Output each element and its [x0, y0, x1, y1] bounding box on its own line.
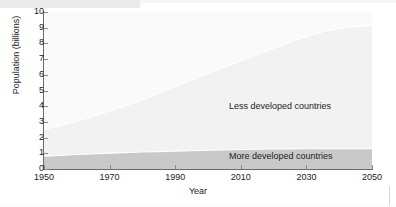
x-tick-label: 2050 [352, 172, 392, 182]
y-tick [44, 28, 48, 29]
y-tick-label: 6 [22, 70, 44, 79]
x-axis-title: Year [0, 186, 396, 196]
y-tick-label: 5 [22, 86, 44, 95]
x-tick-label: 2010 [221, 172, 261, 182]
area-less-developed [44, 25, 372, 156]
y-tick-label: 4 [22, 101, 44, 110]
x-tick-label: 1990 [155, 172, 195, 182]
x-tick [241, 165, 242, 169]
scan-artifact-top-band [0, 0, 140, 8]
y-tick [44, 59, 48, 60]
plot-area [44, 12, 372, 169]
x-tick [110, 165, 111, 169]
x-tick [175, 165, 176, 169]
x-axis-line [43, 169, 373, 170]
y-tick-label: 3 [22, 117, 44, 126]
x-tick-label: 2030 [286, 172, 326, 182]
y-tick-label: 9 [22, 23, 44, 32]
y-tick [44, 43, 48, 44]
series-label-less-developed: Less developed countries [229, 101, 331, 111]
x-tick [372, 165, 373, 169]
y-tick [44, 122, 48, 123]
y-tick-label: 10 [22, 7, 44, 16]
y-tick [44, 12, 48, 13]
population-area-chart: 012345678910 195019701990201020302050 Ye… [0, 0, 396, 207]
y-tick [44, 106, 48, 107]
y-tick [44, 91, 48, 92]
y-axis-title-wrapper: Population (billions) [0, 0, 20, 207]
x-tick [44, 165, 45, 169]
stacked-area-series [44, 12, 372, 169]
y-tick [44, 75, 48, 76]
y-axis-title: Population (billions) [11, 0, 21, 125]
y-tick-label: 8 [22, 38, 44, 47]
y-tick [44, 153, 48, 154]
y-tick [44, 169, 48, 170]
y-tick-label: 7 [22, 54, 44, 63]
scan-artifact-bottom-line [0, 206, 396, 207]
x-tick-label: 1970 [90, 172, 130, 182]
y-tick-label: 1 [22, 148, 44, 157]
series-label-more-developed: More developed countries [229, 151, 333, 161]
x-tick [306, 165, 307, 169]
x-tick-label: 1950 [24, 172, 64, 182]
y-tick-label: 2 [22, 133, 44, 142]
y-tick [44, 138, 48, 139]
